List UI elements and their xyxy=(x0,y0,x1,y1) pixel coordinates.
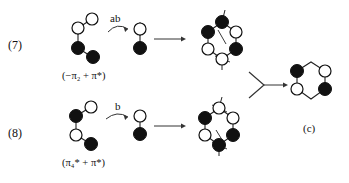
orbital-node-filled xyxy=(230,43,243,56)
row7-intermediate-fragment xyxy=(134,22,147,55)
orbital-node-open xyxy=(319,65,331,77)
row7-reactant-fragment xyxy=(72,13,100,64)
orbital-node-filled xyxy=(199,112,212,125)
orbital-node-open xyxy=(230,26,242,38)
term-label-equation-8: (π₄* + π*) xyxy=(62,157,105,168)
orbital-node-open xyxy=(227,112,239,124)
orbital-node-filled xyxy=(202,26,215,39)
row8-reaction-arrow xyxy=(154,123,186,128)
product-hexagon xyxy=(291,62,332,99)
orbital-node-open xyxy=(199,129,211,141)
row7-hexagon xyxy=(202,10,243,70)
orbital-node-open xyxy=(72,22,84,34)
orbital-node-filled xyxy=(134,128,147,141)
orbital-node-open xyxy=(213,102,225,114)
row8-operator-arrow xyxy=(106,114,128,120)
orbital-node-filled xyxy=(291,65,304,78)
orbital-node-open xyxy=(291,83,303,95)
orbital-node-filled xyxy=(70,110,83,123)
row8-hexagon xyxy=(199,97,240,156)
orbital-node-filled xyxy=(319,83,332,96)
equation-number-8: (8) xyxy=(8,126,22,141)
operator-label-b: b xyxy=(115,100,121,112)
orbital-node-filled xyxy=(216,16,229,29)
orbital-node-open xyxy=(134,110,146,122)
orbital-node-open xyxy=(85,101,97,113)
term-label-equation-7: (−π₂ + π*) xyxy=(62,70,106,81)
row7-reaction-arrow xyxy=(154,36,186,41)
orbital-node-filled xyxy=(85,138,98,151)
row7-operator-arrow xyxy=(108,26,128,32)
row8-intermediate-fragment xyxy=(134,110,147,141)
orbital-node-open xyxy=(216,53,228,65)
orbital-node-open xyxy=(86,13,98,25)
product-label-c: (c) xyxy=(303,122,315,134)
equation-7-group xyxy=(72,10,243,70)
orbital-node-open xyxy=(70,129,82,141)
orbital-node-filled xyxy=(213,139,226,152)
orbital-node-filled xyxy=(134,42,147,55)
orbital-node-filled xyxy=(227,129,240,142)
orbital-node-open xyxy=(202,43,214,55)
reaction-scheme xyxy=(0,0,349,183)
row8-reactant-fragment xyxy=(70,101,98,151)
orbital-node-filled xyxy=(72,42,85,55)
equation-8-group xyxy=(70,97,240,156)
equation-number-7: (7) xyxy=(8,38,22,53)
orbital-node-filled xyxy=(87,51,100,64)
orbital-node-open xyxy=(134,23,146,35)
operator-label-ab: ab xyxy=(110,12,120,24)
merge-arrow xyxy=(249,72,288,98)
